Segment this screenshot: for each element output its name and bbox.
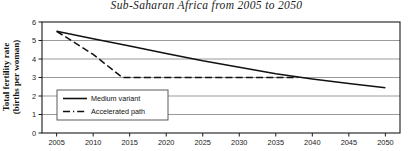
- x-axis-tick-label: 2040: [304, 138, 320, 147]
- x-axis-tick-label: 2035: [268, 138, 284, 147]
- legend-label-accelerated-path: Accelerated path: [91, 107, 145, 116]
- y-axis-tick-label: 3: [32, 73, 36, 82]
- y-axis-tick-label: 4: [32, 55, 36, 64]
- x-axis-tick-label: 2015: [121, 138, 137, 147]
- x-axis-tick-label: 2045: [341, 138, 357, 147]
- x-axis-tick-label: 2030: [231, 138, 247, 147]
- chart-legend: Medium variant Accelerated path: [57, 90, 168, 120]
- x-axis-tick-label: 2020: [158, 138, 174, 147]
- y-axis: 0123456: [32, 18, 42, 138]
- y-axis-tick-label: 2: [32, 92, 36, 101]
- y-axis-tick-label: 1: [32, 110, 36, 119]
- y-axis-tick-label: 5: [32, 36, 36, 45]
- chart-figure: Sub-Saharan Africa from 2005 to 2050 Tot…: [0, 0, 413, 151]
- chart-plot-area: 0123456 20052010201520202025203020352040…: [0, 0, 413, 151]
- y-axis-tick-label: 0: [32, 129, 36, 138]
- x-axis-tick-label: 2005: [48, 138, 64, 147]
- x-axis-tick-label: 2050: [377, 138, 393, 147]
- x-axis: 2005201020152020202520302035204020452050: [48, 133, 393, 147]
- y-axis-tick-label: 6: [32, 18, 36, 27]
- legend-label-medium-variant: Medium variant: [91, 94, 140, 103]
- x-axis-tick-label: 2010: [85, 138, 101, 147]
- x-axis-tick-label: 2025: [195, 138, 211, 147]
